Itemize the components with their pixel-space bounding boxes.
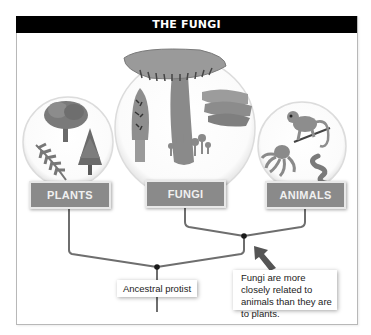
fungi-label: FUNGI (145, 180, 226, 208)
ancestral-node (154, 264, 160, 270)
fungi-illustration-icon (115, 49, 255, 198)
animals-label: ANIMALS (265, 181, 346, 209)
callout-arrow-icon (254, 246, 276, 271)
plants-illustration-icon (23, 97, 113, 187)
ancestral-protist-label: Ancestral protist (117, 280, 197, 297)
fungi-animals-node (241, 233, 247, 239)
relationship-callout: Fungi are more closely related to animal… (233, 270, 337, 310)
plants-label: PLANTS (29, 181, 111, 209)
animals-illustration-icon (258, 102, 346, 190)
